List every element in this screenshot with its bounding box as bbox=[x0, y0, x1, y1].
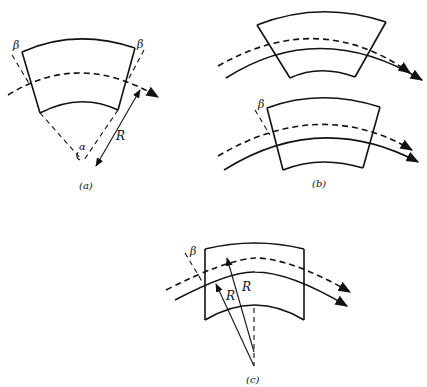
magnet-a-outer-edge bbox=[22, 39, 135, 52]
radius-arrow-a bbox=[96, 90, 140, 166]
trajectory-c-dashed bbox=[166, 258, 350, 292]
trajectory-b1-dashed bbox=[218, 39, 410, 73]
trajectory-b2-dashed bbox=[218, 124, 412, 156]
magnet-b1-outer-edge bbox=[257, 12, 386, 25]
magnet-c-outer-edge bbox=[205, 243, 304, 249]
beta-label-right: β bbox=[136, 38, 143, 51]
magnet-a-inner-edge bbox=[40, 102, 118, 113]
caption-b: (b) bbox=[312, 178, 326, 189]
magnet-b1-entrance-face bbox=[257, 25, 290, 78]
radial-line-right bbox=[84, 110, 118, 160]
caption-a: (a) bbox=[79, 180, 93, 191]
panel-c: β R R (c) bbox=[166, 243, 350, 385]
beta-label-left: β bbox=[12, 39, 19, 52]
magnet-a-entrance-face bbox=[22, 52, 40, 113]
panel-a: β β α R (a) bbox=[8, 38, 158, 191]
radius-label-a: R bbox=[115, 129, 125, 143]
magnet-b1-inner-edge bbox=[290, 71, 355, 78]
magnet-b1-exit-face bbox=[355, 22, 386, 77]
panel-b-bottom: β (b) bbox=[218, 98, 418, 189]
panel-b-top bbox=[218, 12, 422, 80]
caption-c: (c) bbox=[246, 374, 260, 385]
magnet-b2-exit-face bbox=[363, 107, 380, 168]
radius-label-c-2: R bbox=[241, 280, 251, 294]
beta-label-c: β bbox=[189, 245, 196, 258]
diagram-canvas: β β α R (a) β (b) β R bbox=[0, 0, 427, 387]
magnet-b2-entrance-face bbox=[267, 108, 283, 170]
magnet-a-exit-face bbox=[118, 48, 135, 110]
radial-line-left bbox=[40, 113, 82, 160]
trajectory-b2-solid bbox=[224, 138, 418, 170]
trajectory-b1-solid bbox=[226, 48, 422, 80]
beta-label-b: β bbox=[257, 98, 264, 111]
magnet-b2-outer-edge bbox=[267, 98, 380, 108]
magnet-b2-inner-edge bbox=[283, 162, 363, 170]
alpha-label: α bbox=[79, 141, 86, 152]
trajectory-a-dashed bbox=[8, 73, 158, 97]
radius-label-c-1: R bbox=[225, 289, 235, 303]
